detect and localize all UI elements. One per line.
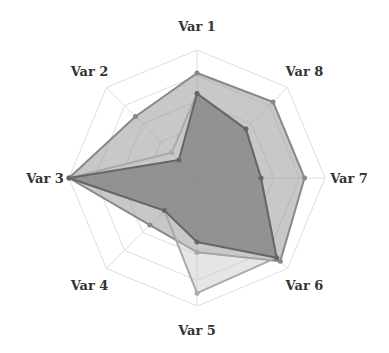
data-point[interactable] [133, 114, 138, 119]
data-point[interactable] [147, 223, 152, 228]
data-point[interactable] [169, 150, 174, 155]
axis-label-var-6: Var 6 [285, 278, 324, 293]
data-point[interactable] [243, 127, 248, 132]
data-point[interactable] [195, 291, 200, 296]
radar-chart: Var 1Var 2Var 3Var 4Var 5Var 6Var 7Var 8 [0, 0, 389, 353]
data-point[interactable] [195, 91, 200, 96]
axis-label-var-8: Var 8 [285, 64, 324, 79]
data-point[interactable] [67, 176, 72, 181]
radar-series [67, 71, 308, 296]
data-point[interactable] [259, 176, 264, 181]
data-point[interactable] [195, 71, 200, 76]
axis-label-var-4: Var 4 [70, 278, 109, 293]
axis-label-var-1: Var 1 [177, 19, 216, 34]
data-point[interactable] [195, 240, 200, 245]
data-point[interactable] [176, 157, 181, 162]
axis-label-var-5: Var 5 [177, 323, 216, 338]
data-point[interactable] [162, 208, 167, 213]
data-point[interactable] [302, 176, 307, 181]
axis-label-var-2: Var 2 [70, 64, 109, 79]
axis-label-var-7: Var 7 [329, 171, 368, 186]
data-point[interactable] [271, 99, 276, 104]
data-point[interactable] [274, 255, 279, 260]
axis-label-var-3: Var 3 [25, 171, 64, 186]
data-point[interactable] [278, 259, 283, 264]
